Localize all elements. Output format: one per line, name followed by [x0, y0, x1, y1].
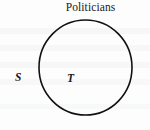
venn-diagram-figure: Politicians S T	[0, 0, 150, 130]
set-label-subset: T	[67, 72, 74, 84]
set-label-universe: S	[15, 71, 21, 83]
venn-diagram-canvas	[0, 0, 150, 130]
diagram-title: Politicians	[0, 1, 150, 14]
subset-circle	[39, 20, 132, 115]
